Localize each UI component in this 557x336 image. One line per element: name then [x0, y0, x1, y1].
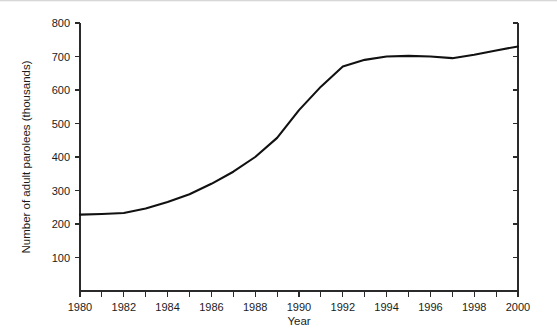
x-tick-label: 1982: [112, 301, 136, 313]
y-tick-label: 800: [52, 17, 70, 29]
data-series-adult-parolees: [80, 46, 518, 214]
y-tick-label: 500: [52, 118, 70, 130]
x-tick-label: 1986: [199, 301, 223, 313]
y-axis-tick-labels: 100200300400500600700800: [52, 17, 70, 264]
y-tick-label: 300: [52, 185, 70, 197]
chart-axes: [80, 23, 518, 291]
x-tick-label: 1992: [331, 301, 355, 313]
x-axis-tick-labels: 1980198219841986198819901992199419961998…: [68, 301, 530, 313]
y-tick-label: 200: [52, 218, 70, 230]
y-tick-label: 400: [52, 151, 70, 163]
x-tick-label: 1980: [68, 301, 92, 313]
y-tick-label: 700: [52, 51, 70, 63]
x-tick-label: 2000: [506, 301, 530, 313]
x-axis-title: Year: [287, 315, 310, 327]
y-tick-label: 100: [52, 252, 70, 264]
x-tick-label: 1994: [374, 301, 398, 313]
x-tick-label: 1984: [155, 301, 179, 313]
x-tick-label: 1988: [243, 301, 267, 313]
y-axis-title: Number of adult parolees (thousands): [20, 60, 32, 253]
figure-container: 1980198219841986198819901992199419961998…: [0, 0, 557, 336]
y-tick-label: 600: [52, 84, 70, 96]
series-line-adult-parolees: [80, 46, 518, 214]
chart-ticks: [75, 23, 518, 297]
x-tick-label: 1998: [462, 301, 486, 313]
x-tick-label: 1990: [287, 301, 311, 313]
x-tick-label: 1996: [418, 301, 442, 313]
line-chart: 1980198219841986198819901992199419961998…: [0, 0, 557, 336]
